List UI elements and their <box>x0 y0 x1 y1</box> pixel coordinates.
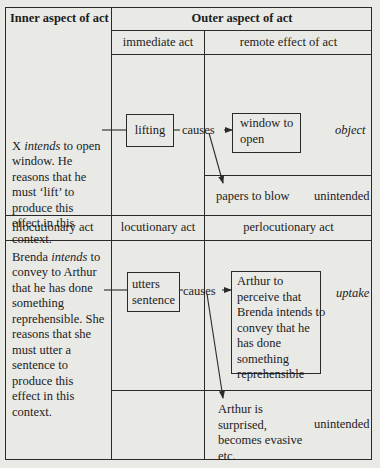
connector-arrows <box>0 0 380 468</box>
